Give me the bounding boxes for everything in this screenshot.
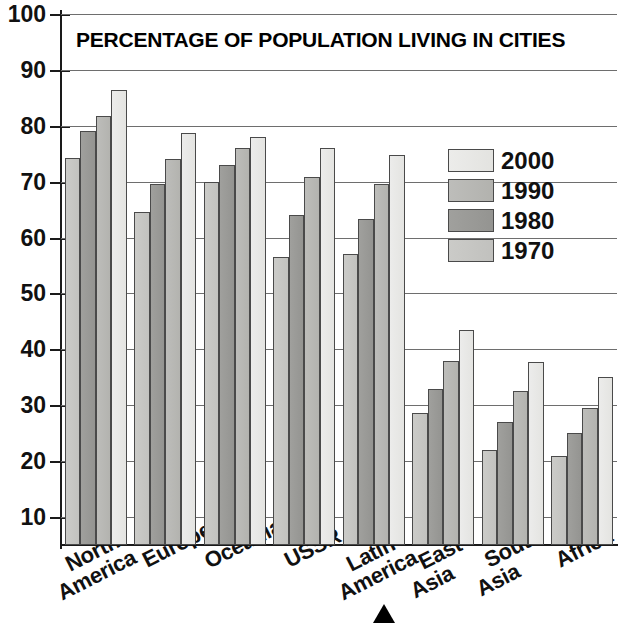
legend-label-2000: 2000: [501, 149, 554, 173]
bar-ussr-1990: [304, 177, 320, 545]
bar-oceania-2000: [250, 137, 266, 545]
gridline-80: [61, 126, 617, 127]
y-tick-label-30: 30: [0, 394, 46, 417]
bar-africa-1990: [582, 408, 598, 545]
bar-south-asia-1980: [497, 422, 513, 545]
y-tick-label-70: 70: [0, 171, 46, 194]
bar-ussr-1970: [273, 257, 289, 545]
bar-north-america-1970: [65, 158, 81, 545]
bar-europe-2000: [181, 133, 197, 546]
bar-north-america-1980: [80, 131, 96, 545]
legend-swatch-1970: [448, 239, 494, 262]
y-tick-label-40: 40: [0, 338, 46, 361]
bar-ussr-1980: [289, 215, 305, 545]
y-tick-label-50: 50: [0, 282, 46, 305]
bar-africa-2000: [598, 377, 614, 545]
legend-swatch-1990: [448, 179, 494, 202]
legend-label-1980: 1980: [501, 209, 554, 233]
legend-item-2000: 2000: [448, 146, 554, 175]
bar-oceania-1980: [219, 165, 235, 545]
y-tick-label-80: 80: [0, 115, 46, 138]
bar-north-america-1990: [96, 116, 112, 545]
chart-title: PERCENTAGE OF POPULATION LIVING IN CITIE…: [72, 26, 569, 54]
bar-latin-america-1970: [343, 254, 359, 545]
y-tick-label-10: 10: [0, 506, 46, 529]
legend: 2000199019801970: [448, 146, 554, 266]
bar-north-america-2000: [111, 90, 127, 545]
bar-east-asia-2000: [459, 330, 475, 545]
bar-latin-america-2000: [389, 155, 405, 545]
legend-item-1990: 1990: [448, 176, 554, 205]
bar-africa-1980: [567, 433, 583, 545]
bar-east-asia-1990: [443, 361, 459, 545]
bar-europe-1990: [165, 159, 181, 545]
bar-south-asia-1970: [482, 450, 498, 545]
legend-swatch-2000: [448, 149, 494, 172]
y-tick-label-90: 90: [0, 59, 46, 82]
legend-label-1970: 1970: [501, 239, 554, 263]
bar-latin-america-1990: [374, 184, 390, 545]
bar-latin-america-1980: [358, 219, 374, 545]
legend-item-1980: 1980: [448, 206, 554, 235]
legend-item-1970: 1970: [448, 236, 554, 265]
legend-swatch-1980: [448, 209, 494, 232]
legend-label-1990: 1990: [501, 179, 554, 203]
bar-chart: 100908070605040302010 PERCENTAGE OF POPU…: [0, 0, 631, 637]
bar-europe-1980: [150, 184, 166, 545]
gridline-90: [61, 70, 617, 71]
bar-oceania-1990: [235, 148, 251, 545]
bar-africa-1970: [551, 456, 567, 545]
y-tick-label-60: 60: [0, 227, 46, 250]
bar-south-asia-2000: [528, 362, 544, 545]
triangle-up-icon: [373, 604, 395, 623]
plot-area: [61, 14, 617, 545]
y-tick-label-100: 100: [0, 3, 46, 26]
bar-south-asia-1990: [513, 391, 529, 545]
bar-europe-1970: [134, 212, 150, 545]
bar-ussr-2000: [320, 148, 336, 545]
gridline-100: [61, 14, 617, 15]
bar-east-asia-1970: [412, 413, 428, 545]
bar-east-asia-1980: [428, 389, 444, 546]
y-tick-label-20: 20: [0, 450, 46, 473]
bar-oceania-1970: [204, 182, 220, 545]
